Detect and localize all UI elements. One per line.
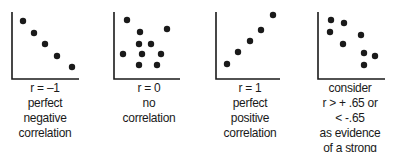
scatterplot-strong xyxy=(318,12,385,79)
data-point xyxy=(20,18,26,24)
data-point xyxy=(340,41,346,47)
data-point xyxy=(361,62,367,68)
data-point xyxy=(247,38,253,44)
caption-line: negative xyxy=(0,110,91,125)
data-point xyxy=(372,53,378,59)
data-point xyxy=(361,50,367,56)
caption-line: positive xyxy=(204,110,296,125)
data-point xyxy=(341,20,347,26)
caption-line: consider xyxy=(304,80,395,95)
data-point xyxy=(69,64,75,70)
data-point xyxy=(358,32,364,38)
data-point xyxy=(327,29,333,35)
caption-line: correlation xyxy=(204,125,296,140)
axes xyxy=(318,12,385,79)
caption-line: perfect xyxy=(0,95,91,110)
caption-positive-correlation: r = 1 perfect positive correlation xyxy=(204,80,296,140)
caption-line: no xyxy=(103,95,195,110)
axes xyxy=(114,12,180,79)
axes xyxy=(216,12,280,79)
data-point xyxy=(258,27,264,33)
caption-line: as evidence xyxy=(304,125,395,140)
data-point xyxy=(124,17,130,23)
caption-strong-correlation: consider r > + .65 or < -.65 as evidence… xyxy=(304,80,395,152)
caption-no-correlation: r = 0 no correlation xyxy=(103,80,195,125)
caption-line: r = 0 xyxy=(103,80,195,95)
data-point xyxy=(120,51,126,57)
data-point xyxy=(31,30,37,36)
data-point xyxy=(136,62,142,68)
data-point xyxy=(148,41,154,47)
data-point xyxy=(270,12,276,18)
caption-line: perfect xyxy=(204,95,296,110)
data-point xyxy=(328,17,334,23)
caption-line: r > + .65 or xyxy=(304,95,395,110)
caption-line: correlation xyxy=(103,110,195,125)
caption-line: r = –1 xyxy=(0,80,91,95)
scatterplot-none xyxy=(114,12,180,79)
data-point xyxy=(54,53,60,59)
caption-negative-correlation: r = –1 perfect negative correlation xyxy=(0,80,91,140)
data-point xyxy=(42,41,48,47)
data-point xyxy=(224,61,230,67)
data-point xyxy=(137,29,143,35)
data-point xyxy=(139,51,145,57)
caption-line: of a strong xyxy=(304,140,395,152)
data-point xyxy=(154,62,160,68)
caption-line: correlation xyxy=(0,125,91,140)
caption-line: r = 1 xyxy=(204,80,296,95)
data-point xyxy=(235,49,241,55)
scatterplot-negative xyxy=(12,12,79,79)
data-point xyxy=(136,41,142,47)
caption-line: < -.65 xyxy=(304,110,395,125)
scatterplot-positive xyxy=(216,12,280,79)
data-point xyxy=(164,26,170,32)
data-point xyxy=(158,51,164,57)
